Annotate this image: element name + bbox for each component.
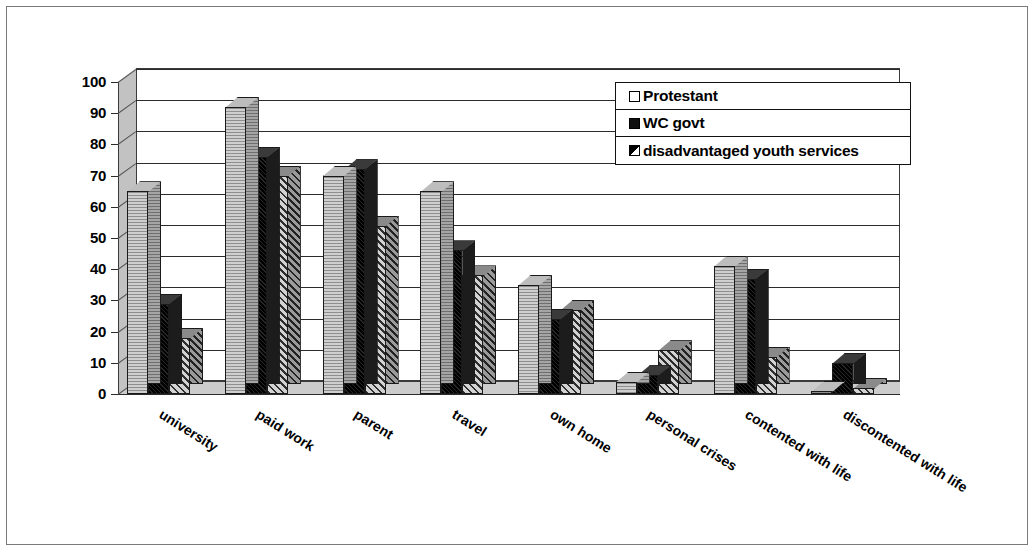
bar (127, 191, 148, 394)
bar-front-face (518, 285, 539, 394)
bar (616, 382, 637, 394)
y-axis-tick-label: 70 (60, 167, 106, 184)
y-axis-tick-label: 40 (60, 260, 106, 277)
y-axis-tick (111, 394, 118, 395)
bar-side-face (267, 147, 280, 384)
y-axis-tick-label: 50 (60, 229, 106, 246)
x-axis-label: paid work (254, 406, 318, 454)
x-axis-label: own home (547, 406, 614, 456)
bar-side-face (246, 97, 259, 384)
y-axis-tick (111, 238, 118, 239)
legend-item-label: Protestant (643, 87, 718, 105)
legend-item-label: disadvantaged youth services (643, 142, 859, 160)
legend-item: disadvantaged youth services (616, 137, 910, 164)
legend-swatch-protestant-icon (629, 91, 640, 102)
bar-side-face (365, 159, 378, 384)
chart-legend: ProtestantWC govtdisadvantaged youth ser… (615, 82, 911, 165)
bar-front-face (127, 191, 148, 394)
bar (420, 191, 441, 394)
bar (323, 176, 344, 394)
legend-item-label: WC govt (643, 114, 704, 132)
y-axis-tick (111, 363, 118, 364)
y-axis-tick-label: 80 (60, 135, 106, 152)
screenshot-root: 0102030405060708090100 universitypaid wo… (0, 0, 1036, 553)
bar-front-face (323, 176, 344, 394)
y-axis-tick (111, 269, 118, 270)
bar (518, 285, 539, 394)
bar-front-face (420, 191, 441, 394)
bar-side-face (735, 256, 748, 384)
bar-side-face (169, 294, 182, 384)
bar (225, 107, 246, 394)
bar-front-face (616, 382, 637, 394)
bar-side-face (344, 166, 357, 384)
bar-front-face (714, 266, 735, 394)
legend-item: WC govt (616, 110, 910, 137)
bar-front-face (853, 388, 874, 394)
x-axis-label: personal crises (645, 406, 741, 474)
bar-side-face (148, 181, 161, 384)
legend-swatch-wc-govt-icon (629, 118, 640, 129)
bar (811, 391, 832, 394)
y-axis-tick (111, 113, 118, 114)
y-axis-tick-label: 30 (60, 291, 106, 308)
gridline (136, 69, 900, 70)
y-axis-tick (111, 144, 118, 145)
legend-item: Protestant (616, 83, 910, 110)
y-axis-tick (111, 300, 118, 301)
y-axis-tick (111, 82, 118, 83)
y-axis-tick-label: 90 (60, 104, 106, 121)
bar-front-face (832, 363, 853, 394)
bar-front-face (225, 107, 246, 394)
bar (832, 363, 853, 394)
bar (853, 388, 874, 394)
bar-side-face (581, 300, 594, 384)
x-axis-label: discontented with life (840, 406, 970, 495)
y-axis-tick (111, 207, 118, 208)
y-axis-tick (111, 176, 118, 177)
bar-side-face (462, 240, 475, 384)
bar-side-face (483, 265, 496, 384)
bar-chart: 0102030405060708090100 universitypaid wo… (0, 0, 1036, 553)
bar-side-face (441, 181, 454, 384)
y-axis-tick-label: 20 (60, 323, 106, 340)
x-axis-label: travel (449, 406, 489, 439)
bar-side-face (756, 269, 769, 384)
x-axis-label: university (156, 406, 221, 455)
bar-side-face (386, 216, 399, 384)
x-axis-label: parent (352, 406, 397, 442)
y-axis-tick-label: 100 (60, 73, 106, 90)
x-axis-label: contented with life (743, 406, 856, 485)
bar-side-face (288, 166, 301, 384)
y-axis-tick-label: 60 (60, 198, 106, 215)
chart-floor-front-edge (118, 394, 900, 395)
bar-front-face (811, 391, 832, 394)
bar-side-face (560, 309, 573, 384)
bar-side-face (539, 275, 552, 384)
bar (714, 266, 735, 394)
legend-swatch-disadvantaged-youth-services-icon (629, 145, 640, 156)
y-axis-tick-label: 0 (60, 385, 106, 402)
y-axis-tick (111, 332, 118, 333)
y-axis-tick-label: 10 (60, 354, 106, 371)
